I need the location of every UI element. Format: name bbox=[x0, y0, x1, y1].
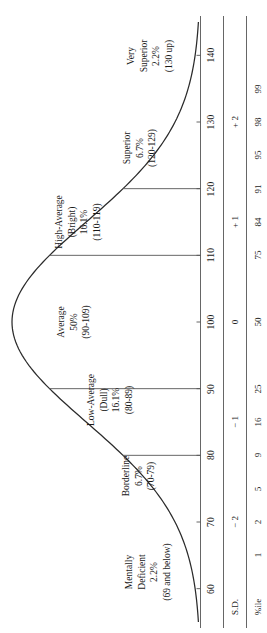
category-label-very-superior: VerySuperior2.2%(130 up) bbox=[125, 40, 175, 73]
category-label-mentally-deficient: MentallyDeficient2.2%(69 and below) bbox=[123, 543, 173, 601]
category-label-line: 6.7% bbox=[134, 129, 147, 167]
bell-curve-figure: 60708090100110120130140− 2− 10+ 1+ 21259… bbox=[0, 0, 267, 633]
category-label-line: Superior bbox=[121, 129, 134, 167]
category-label-line: 50% bbox=[68, 305, 81, 338]
category-label-line: (Bright) bbox=[65, 195, 78, 249]
iq-tick-label-80: 80 bbox=[207, 450, 217, 460]
category-label-low-average: Low-Average(Dull)16.1%(80-89) bbox=[85, 374, 135, 426]
pct-tick-label-50: 50 bbox=[253, 318, 262, 327]
category-label-high-average: High-Average(Bright)16.1%(110-119) bbox=[53, 195, 103, 249]
category-label-borderline: Borderline6.7%(70-79) bbox=[120, 456, 158, 497]
sd-tick-label-0: 0 bbox=[230, 320, 239, 325]
category-label-line: 16.1% bbox=[110, 374, 123, 426]
iq-tick-label-90: 90 bbox=[207, 384, 217, 394]
sd-tick-label-2: − 2 bbox=[230, 516, 239, 528]
category-label-average: Average50%(90-109) bbox=[55, 305, 93, 338]
iq-tick-label-60: 60 bbox=[207, 584, 217, 594]
category-label-line: Low-Average bbox=[85, 374, 98, 426]
category-label-line: (90-109) bbox=[80, 305, 93, 338]
iq-tick-label-110: 110 bbox=[207, 248, 217, 263]
category-label-line: (Dull) bbox=[97, 374, 110, 426]
pct-tick-label-2: 2 bbox=[253, 520, 262, 525]
category-label-line: Superior bbox=[137, 40, 150, 73]
iq-tick-label-140: 140 bbox=[207, 48, 217, 63]
pct-tick-label-9: 9 bbox=[253, 453, 262, 458]
category-label-line: Deficient bbox=[135, 543, 148, 601]
pct-tick-label-75: 75 bbox=[253, 251, 262, 260]
category-label-line: 6.7% bbox=[133, 456, 146, 497]
iq-tick-label-100: 100 bbox=[207, 315, 217, 330]
category-label-line: Mentally bbox=[123, 543, 136, 601]
category-label-line: (80-89) bbox=[123, 374, 136, 426]
pct-tick-label-1: 1 bbox=[253, 553, 262, 558]
iq-tick-label-120: 120 bbox=[207, 181, 217, 196]
pct-tick-label-99: 99 bbox=[253, 84, 262, 93]
category-label-line: Borderline bbox=[120, 456, 133, 497]
sd-tick-label-1: + 1 bbox=[230, 216, 239, 228]
pct-tick-label-25: 25 bbox=[253, 384, 262, 393]
sd-tick-label-2: + 2 bbox=[230, 116, 239, 128]
category-label-line: 2.2% bbox=[148, 543, 161, 601]
iq-tick-label-70: 70 bbox=[207, 517, 217, 527]
iq-tick-label-130: 130 bbox=[207, 115, 217, 130]
pct-tick-label-84: 84 bbox=[253, 218, 262, 227]
category-label-line: (70-79) bbox=[145, 456, 158, 497]
pct-tick-label-98: 98 bbox=[253, 118, 262, 127]
category-label-line: (110-119) bbox=[91, 195, 104, 249]
category-label-line: 16.1% bbox=[78, 195, 91, 249]
category-label-line: Very bbox=[125, 40, 138, 73]
pct-tick-label-16: 16 bbox=[253, 418, 262, 427]
pct-tick-label-91: 91 bbox=[253, 184, 262, 193]
category-label-line: (130 up) bbox=[163, 40, 176, 73]
category-label-line: High-Average bbox=[53, 195, 66, 249]
sd-tick-label-1: − 1 bbox=[230, 416, 239, 428]
pct-tick-label-5: 5 bbox=[253, 486, 262, 491]
pct-row-caption: %ile bbox=[253, 599, 262, 616]
category-label-line: (120-129) bbox=[146, 129, 159, 167]
labels-layer: 60708090100110120130140− 2− 10+ 1+ 21259… bbox=[0, 0, 267, 633]
category-label-superior: Superior6.7%(120-129) bbox=[121, 129, 159, 167]
category-label-line: Average bbox=[55, 305, 68, 338]
category-label-line: 2.2% bbox=[150, 40, 163, 73]
category-label-line: (69 and below) bbox=[161, 543, 174, 601]
pct-tick-label-95: 95 bbox=[253, 151, 262, 160]
sd-row-caption: S.D. bbox=[230, 599, 239, 615]
